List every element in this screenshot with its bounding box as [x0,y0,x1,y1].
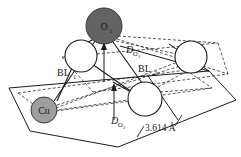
do2-subsubscript: 2 [123,125,125,130]
do1-subsubscript: 1 [138,54,140,59]
oxygen-adatom-sublabel: 1 [110,28,113,34]
lattice-distance-label: 3.614 Å [145,122,176,133]
depth-o2-label: D O 2 [110,115,125,130]
dashed-top-right-edge [218,43,228,74]
surface-atom-left[interactable] [65,40,97,72]
bl2-subscript: 2 [154,69,157,76]
oxygen-adatom-label: O [100,21,107,32]
dashed-bottom-back-edge [18,70,186,93]
slab-right-edge [209,71,236,100]
slab-back-edge [9,76,148,88]
bl2-base: BL [138,63,151,74]
slab-front-edge-left [30,131,118,147]
dashed-o-to-right-back [118,36,218,43]
bond-length-2-label: BL 2 [138,63,157,76]
dashed-front-to-right-low [160,88,212,92]
bl1-subscript: 1 [73,73,76,80]
structure-svg: O 1 Cu BL 1 BL 2 D O 1 D O 2 3.614 Å [0,0,241,157]
surface-atom-front[interactable] [128,82,162,116]
surface-atom-right[interactable] [175,41,207,73]
bl1-base: BL [57,67,70,78]
crystal-structure-figure: O 1 Cu BL 1 BL 2 D O 1 D O 2 3.614 Å [0,0,241,157]
copper-atom-label: Cu [38,105,50,116]
distance-leader-left [137,126,144,137]
